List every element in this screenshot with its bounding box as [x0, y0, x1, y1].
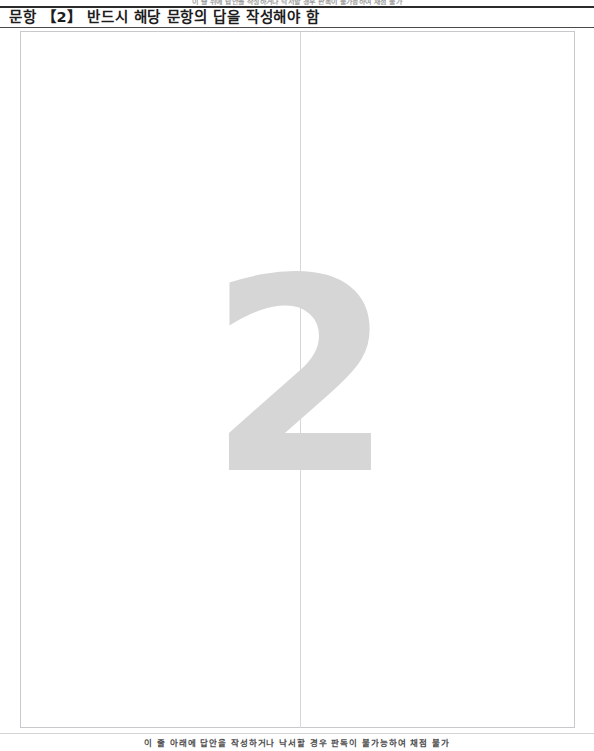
footer-rule [0, 733, 594, 734]
question-header-label: 문항 【2】 반드시 해당 문항의 답을 작성해야 함 [9, 8, 320, 26]
answer-sheet-page: 이 줄 위에 답안을 작성하거나 낙서할 경우 판독이 불가능하여 채점 불가 … [0, 0, 594, 751]
footer-warning-notice: 이 줄 아래에 답안을 작성하거나 낙서할 경우 판독이 불가능하여 채점 불가 [0, 738, 594, 749]
question-number-watermark: 2 [205, 252, 395, 502]
header-bottom-rule [0, 27, 594, 28]
top-warning-notice: 이 줄 위에 답안을 작성하거나 낙서할 경우 판독이 불가능하여 채점 불가 [0, 0, 594, 5]
